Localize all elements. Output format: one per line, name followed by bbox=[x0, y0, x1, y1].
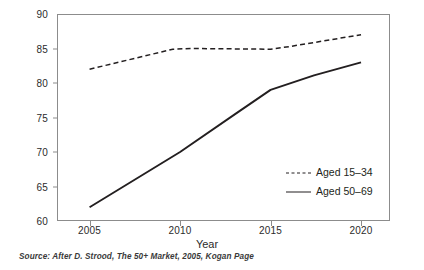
legend-label-aged-15-34: Aged 15–34 bbox=[316, 167, 373, 178]
x-tick-label: 2015 bbox=[259, 225, 282, 236]
legend-swatch-solid bbox=[286, 187, 311, 197]
x-tick-label: 2010 bbox=[169, 225, 192, 236]
legend-label-aged-50-69: Aged 50–69 bbox=[316, 186, 373, 197]
source-caption: Source: After D. Strood, The 50+ Market,… bbox=[19, 252, 254, 261]
x-tick-label: 2020 bbox=[350, 225, 373, 236]
legend-item-aged-50-69: Aged 50–69 bbox=[286, 182, 373, 201]
figure: 60657075808590 2005201020152020 Year Age… bbox=[0, 0, 424, 270]
chart-legend: Aged 15–34 Aged 50–69 bbox=[286, 163, 373, 201]
legend-swatch-dashed bbox=[286, 168, 311, 178]
x-axis-title-text: Year bbox=[196, 238, 218, 250]
x-axis-title: Year bbox=[0, 238, 424, 250]
legend-item-aged-15-34: Aged 15–34 bbox=[286, 163, 373, 182]
x-tick-label: 2005 bbox=[78, 225, 101, 236]
